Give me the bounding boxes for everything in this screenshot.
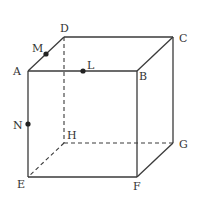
label-L: L <box>87 59 95 72</box>
label-E: E <box>17 178 25 191</box>
point-M <box>43 51 48 56</box>
edge-BC <box>137 37 173 71</box>
marked-points <box>25 51 85 126</box>
label-N: N <box>13 119 23 132</box>
visible-edges <box>28 37 173 177</box>
cube-svg: A B C D E F G H M L N <box>0 0 199 203</box>
label-A: A <box>12 65 22 78</box>
label-B: B <box>139 70 147 83</box>
label-D: D <box>60 22 69 35</box>
cube-diagram: A B C D E F G H M L N <box>0 0 199 203</box>
label-M: M <box>32 42 43 55</box>
point-N <box>25 121 30 126</box>
label-H: H <box>67 129 77 142</box>
label-G: G <box>179 138 188 151</box>
edge-FG <box>137 143 173 177</box>
point-L <box>80 68 85 73</box>
label-F: F <box>133 180 141 193</box>
edge-HE <box>28 143 64 177</box>
label-C: C <box>179 32 187 45</box>
